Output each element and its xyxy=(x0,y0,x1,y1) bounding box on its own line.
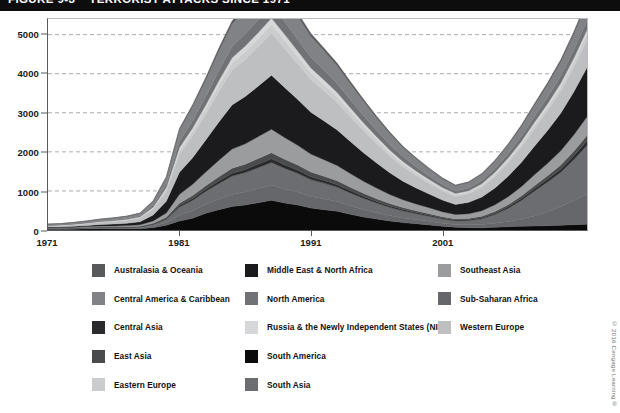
legend-item-label: Western Europe xyxy=(460,322,524,332)
legend-item[interactable]: Central Asia xyxy=(92,313,252,342)
x-axis-tick-mark xyxy=(179,231,180,236)
legend-color-swatch xyxy=(245,350,258,363)
y-axis-tick-label: 0 xyxy=(34,226,39,237)
figure-header-bar: FIGURE 9-3TERRORIST ATTACKS SINCE 1971 xyxy=(0,0,620,11)
legend-item[interactable]: Western Europe xyxy=(438,313,588,342)
x-axis-tick-label: 2001 xyxy=(432,237,453,248)
stacked-area-series xyxy=(48,19,587,230)
plot-area xyxy=(47,18,588,231)
legend-color-swatch xyxy=(245,292,258,305)
legend-color-swatch xyxy=(92,264,105,277)
figure-header-text: FIGURE 9-3TERRORIST ATTACKS SINCE 1971 xyxy=(8,0,290,5)
legend-column-2: Middle East & North AfricaNorth AmericaR… xyxy=(245,256,445,399)
legend-item[interactable]: Russia & the Newly Independent States (N… xyxy=(245,313,445,342)
legend-column-3: Southeast AsiaSub-Saharan AfricaWestern … xyxy=(438,256,588,342)
legend-column-1: Australasia & OceaniaCentral America & C… xyxy=(92,256,252,399)
legend-color-swatch xyxy=(438,264,451,277)
legend-color-swatch xyxy=(438,292,451,305)
legend-item-label: Southeast Asia xyxy=(460,265,520,275)
legend-color-swatch xyxy=(92,292,105,305)
legend-item-label: Central Asia xyxy=(114,322,163,332)
chart-container: 010002000300040005000 1971198119912001 xyxy=(0,11,620,249)
legend-color-swatch xyxy=(245,321,258,334)
legend-color-swatch xyxy=(245,378,258,391)
y-axis: 010002000300040005000 xyxy=(0,18,47,231)
legend-item-label: Russia & the Newly Independent States (N… xyxy=(267,322,446,332)
legend-item[interactable]: Southeast Asia xyxy=(438,256,588,285)
legend-item-label: South America xyxy=(267,351,326,361)
legend-item[interactable]: Middle East & North Africa xyxy=(245,256,445,285)
legend-item-label: Central America & Caribbean xyxy=(114,294,230,304)
legend-color-swatch xyxy=(92,378,105,391)
legend-color-swatch xyxy=(92,321,105,334)
y-axis-tick-label: 5000 xyxy=(17,28,39,39)
chart-legend: Australasia & OceaniaCentral America & C… xyxy=(92,256,562,396)
x-axis-tick-label: 1991 xyxy=(300,237,321,248)
legend-item[interactable]: South Asia xyxy=(245,370,445,399)
legend-item-label: South Asia xyxy=(267,380,311,390)
legend-item-label: North America xyxy=(267,294,325,304)
x-axis-tick-label: 1971 xyxy=(36,237,57,248)
y-axis-tick-label: 3000 xyxy=(17,107,39,118)
y-axis-tick-label: 2000 xyxy=(17,147,39,158)
legend-item-label: East Asia xyxy=(114,351,152,361)
legend-item[interactable]: East Asia xyxy=(92,342,252,371)
legend-item-label: Australasia & Oceania xyxy=(114,265,203,275)
copyright-notice: © 2016 Cengage Learning® xyxy=(611,320,618,407)
legend-color-swatch xyxy=(92,350,105,363)
legend-item[interactable]: Eastern Europe xyxy=(92,370,252,399)
legend-item-label: Eastern Europe xyxy=(114,380,176,390)
figure-title: TERRORIST ATTACKS SINCE 1971 xyxy=(89,0,290,5)
legend-item[interactable]: South America xyxy=(245,342,445,371)
legend-item[interactable]: Australasia & Oceania xyxy=(92,256,252,285)
x-axis-tick-mark xyxy=(311,231,312,236)
legend-item[interactable]: North America xyxy=(245,285,445,314)
x-axis-tick-mark xyxy=(443,231,444,236)
legend-item-label: Middle East & North Africa xyxy=(267,265,373,275)
legend-item-label: Sub-Saharan Africa xyxy=(460,294,538,304)
legend-color-swatch xyxy=(245,264,258,277)
x-axis: 1971198119912001 xyxy=(47,231,588,249)
legend-color-swatch xyxy=(438,321,451,334)
figure-number: FIGURE 9-3 xyxy=(8,0,75,5)
legend-item[interactable]: Central America & Caribbean xyxy=(92,285,252,314)
y-axis-tick-label: 4000 xyxy=(17,68,39,79)
y-axis-tick-label: 1000 xyxy=(17,186,39,197)
legend-item[interactable]: Sub-Saharan Africa xyxy=(438,285,588,314)
x-axis-tick-label: 1981 xyxy=(168,237,189,248)
